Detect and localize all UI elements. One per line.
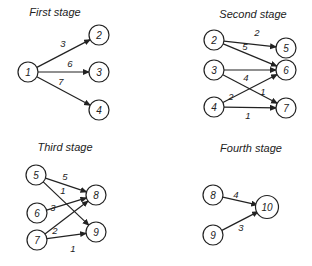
- edge-2-to-6: 5: [223, 41, 277, 66]
- edge-2-to-5: 2: [224, 27, 276, 47]
- edge-weight: 1: [70, 243, 75, 254]
- node-9: 9: [203, 225, 223, 245]
- edge-weight: 2: [253, 27, 260, 38]
- node-5: 5: [26, 165, 46, 185]
- arrow-line: [224, 41, 276, 47]
- edge-3-to-6: 4: [224, 70, 276, 83]
- edge-weight: 5: [242, 41, 248, 52]
- edge-weight: 2: [51, 225, 58, 236]
- edge-1-to-2: 3: [37, 38, 90, 67]
- edge-weight: 5: [62, 171, 68, 182]
- edge-5-to-8: 5: [45, 171, 86, 192]
- node-8: 8: [86, 185, 106, 205]
- node-3: 3: [204, 60, 224, 80]
- arrow-line: [224, 107, 276, 108]
- arrow-line: [223, 197, 257, 205]
- node-label: 2: [95, 30, 102, 41]
- stage-2: Second stage254121253647: [204, 8, 296, 121]
- stage-3: Third stage5132156789: [26, 141, 106, 254]
- node-1: 1: [18, 62, 38, 82]
- node-label: 8: [93, 190, 99, 201]
- node-label: 2: [210, 35, 217, 46]
- stage-title: First stage: [29, 6, 80, 18]
- node-label: 9: [210, 230, 216, 241]
- node-10: 10: [256, 196, 279, 219]
- stage-title: Second stage: [219, 8, 286, 20]
- edge-9-to-10: 3: [222, 212, 258, 233]
- arrow-line: [223, 44, 277, 66]
- edge-weight: 3: [238, 222, 244, 233]
- node-3: 3: [89, 62, 109, 82]
- edge-1-to-3: 6: [38, 58, 89, 72]
- node-label: 3: [96, 67, 102, 78]
- edge-weight: 1: [60, 185, 65, 196]
- node-label: 7: [283, 103, 289, 114]
- edge-weight: 3: [60, 38, 66, 49]
- node-9: 9: [86, 222, 106, 242]
- node-7: 7: [27, 230, 47, 250]
- edge-weight: 6: [67, 58, 73, 69]
- node-label: 8: [210, 190, 216, 201]
- node-2: 2: [204, 30, 224, 50]
- node-label: 3: [211, 65, 217, 76]
- node-7: 7: [276, 98, 296, 118]
- edge-weight: 2: [227, 91, 234, 102]
- multistage-graph-diagram: First stage3671234Second stage2541212536…: [0, 0, 312, 266]
- edge-weight: 7: [58, 76, 64, 87]
- node-label: 1: [25, 67, 31, 78]
- node-4: 4: [89, 100, 109, 120]
- edge-1-to-4: 7: [37, 76, 90, 105]
- edge-7-to-9: 1: [47, 233, 86, 254]
- stage-4: Fourth stage438910: [203, 142, 282, 245]
- edge-weight: 1: [260, 86, 265, 97]
- edge-6-to-8: 3: [47, 198, 87, 213]
- stage-title: Fourth stage: [220, 142, 282, 154]
- edge-8-to-10: 4: [223, 189, 257, 205]
- edge-4-to-7: 1: [224, 107, 276, 121]
- node-label: 5: [33, 170, 39, 181]
- node-label: 9: [93, 227, 99, 238]
- node-label: 10: [261, 202, 273, 213]
- node-label: 6: [34, 208, 40, 219]
- node-label: 6: [283, 65, 289, 76]
- edge-weight: 1: [245, 110, 250, 121]
- node-6: 6: [27, 203, 47, 223]
- node-label: 4: [96, 105, 102, 116]
- node-4: 4: [204, 97, 224, 117]
- edge-weight: 3: [50, 202, 56, 213]
- stage-1: First stage3671234: [18, 6, 109, 120]
- node-5: 5: [276, 38, 296, 58]
- node-label: 7: [34, 235, 40, 246]
- node-8: 8: [203, 185, 223, 205]
- edge-weight: 4: [233, 189, 238, 200]
- stage-title: Third stage: [37, 141, 92, 153]
- node-6: 6: [276, 60, 296, 80]
- node-label: 5: [283, 43, 289, 54]
- node-2: 2: [89, 25, 109, 45]
- node-label: 4: [211, 102, 217, 113]
- edge-weight: 4: [243, 72, 248, 83]
